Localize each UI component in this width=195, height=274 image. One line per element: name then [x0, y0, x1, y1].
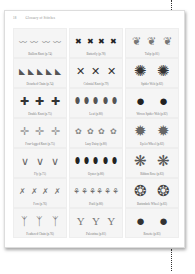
stitch-icon: ✖: [75, 37, 82, 46]
stitch-grid: 〰〰〰〰Bullion Knot (p.74)✖✖✖✖Butterfly (p.…: [13, 28, 179, 238]
stitch-caption: Spider Web (p.82): [126, 82, 178, 86]
stitch-icon: ⚘: [104, 187, 111, 196]
stitch-icon: ✚: [20, 95, 29, 108]
stitch-caption: Pistil (p.80): [70, 202, 122, 206]
stitch-caption: Fern (p.76): [14, 202, 66, 206]
stitch-icon: ❋: [157, 152, 170, 170]
stitch-icon: ✕: [91, 65, 100, 78]
stitch-icon: ⬮: [93, 96, 98, 106]
stitch-icon: ⬮: [103, 156, 108, 166]
stitch-sample: ✕✕✕Colonial Knot (p.79): [69, 58, 123, 88]
stitch-icon: ◣: [37, 67, 43, 76]
stitch-sample: ∨∨∨Fly (p.75): [13, 148, 67, 178]
stitch-icon: ✿: [87, 127, 94, 136]
stitch-icon: ⚘: [81, 187, 88, 196]
stitch-sample: ⬮⬮⬮⬮⬮Oyster (p.80): [69, 148, 123, 178]
stitch-illustration: ⬮⬮⬮⬮⬮: [73, 91, 119, 111]
stitch-illustration: ᛉᛉᛉ: [17, 211, 63, 231]
stitch-sample: ●●Rosette (p.83): [125, 208, 179, 238]
book-page: 18 Glossary of Stitches 〰〰〰〰Bullion Knot…: [4, 10, 185, 248]
stitch-sample: YYYPalestrina (p.81): [69, 208, 123, 238]
stitch-caption: Tulip (p.81): [126, 52, 178, 56]
stitch-icon: ◣: [55, 67, 61, 76]
stitch-sample: ✿✿✿✿Lazy Daisy (p.80): [69, 118, 123, 148]
stitch-icon: ✕: [76, 65, 85, 78]
stitch-sample: ⬮⬮⬮⬮⬮Leaf (p.80): [69, 88, 123, 118]
stitch-icon: ∨: [51, 155, 59, 168]
stitch-icon: ✿: [110, 127, 117, 136]
stitch-icon: ⬮: [93, 156, 98, 166]
stitch-icon: Y: [92, 215, 100, 227]
stitch-illustration: ∨∨∨: [17, 151, 63, 171]
stitch-icon: ❋: [134, 152, 147, 170]
stitch-sample: ⚘⚘⚘⚘⚘⚘Pistil (p.80): [69, 178, 123, 208]
stitch-icon: ❦: [147, 35, 156, 48]
stitch-icon: ❦: [163, 35, 172, 48]
stitch-icon: 〰: [19, 36, 27, 47]
stitch-caption: Eyelet Wheel (p.82): [126, 142, 178, 146]
stitch-icon: ✕: [107, 65, 116, 78]
stitch-sample: ᛉᛉᛉFeathered Chain (p.76): [13, 208, 67, 238]
stitch-caption: Oyster (p.80): [70, 172, 122, 176]
stitch-icon: ✗: [19, 187, 26, 196]
stitch-illustration: ✛✛✛: [17, 121, 63, 141]
stitch-sample: ✗✗✗✗Fern (p.76): [13, 178, 67, 208]
stitch-sample: 〰〰〰〰Bullion Knot (p.74): [13, 28, 67, 58]
stitch-illustration: ✿✿✿✿: [73, 121, 119, 141]
stitch-icon: ❂: [157, 182, 170, 200]
stitch-caption: Leaf (p.80): [70, 112, 122, 116]
stitch-caption: Double Knot (p.75): [14, 112, 66, 116]
stitch-caption: Palestrina (p.81): [70, 232, 122, 236]
stitch-icon: ✿: [75, 127, 82, 136]
stitch-icon: ✛: [35, 125, 44, 138]
stitch-icon: ●: [136, 93, 145, 110]
stitch-illustration: ●●: [129, 91, 175, 111]
stitch-illustration: ⚘⚘⚘⚘⚘⚘: [73, 181, 119, 201]
stitch-caption: Buttonhole Wheel (p.83): [126, 202, 178, 206]
stitch-illustration: ◣◣◣◣◣: [17, 61, 63, 81]
stitch-sample: ●●Woven Spider Web (p.82): [125, 88, 179, 118]
stitch-icon: ⬮: [75, 156, 80, 166]
stitch-sample: ✺✺Spider Web (p.82): [125, 58, 179, 88]
stitch-caption: Lazy Daisy (p.80): [70, 142, 122, 146]
stitch-icon: ✹: [134, 122, 147, 140]
stitch-sample: ✛✛✛Four-legged Knot (p.75): [13, 118, 67, 148]
stitch-icon: ●: [136, 213, 145, 230]
stitch-sample: ✚✚✚Double Knot (p.75): [13, 88, 67, 118]
stitch-icon: ⬮: [112, 156, 117, 166]
stitch-icon: 〰: [30, 36, 38, 47]
stitch-illustration: ✗✗✗✗: [17, 181, 63, 201]
stitch-illustration: ✕✕✕: [73, 61, 119, 81]
stitch-icon: ⬮: [103, 96, 108, 106]
stitch-icon: ⚘: [112, 187, 119, 196]
stitch-caption: Four-legged Knot (p.75): [14, 142, 66, 146]
stitch-icon: ✚: [51, 95, 60, 108]
stitch-illustration: ✹✹: [129, 121, 175, 141]
stitch-caption: Colonial Knot (p.79): [70, 82, 122, 86]
stitch-icon: ✖: [98, 37, 105, 46]
stitch-icon: ∨: [36, 155, 44, 168]
stitch-illustration: 〰〰〰〰: [17, 31, 63, 51]
stitch-icon: ⚘: [73, 187, 80, 196]
stitch-icon: ✖: [87, 37, 94, 46]
stitch-icon: ✛: [51, 125, 60, 138]
stitch-icon: ⬮: [84, 96, 89, 106]
stitch-illustration: ❂❂: [129, 181, 175, 201]
stitch-icon: ✗: [42, 187, 49, 196]
stitch-icon: ●: [159, 93, 168, 110]
stitch-icon: Y: [77, 215, 85, 227]
stitch-caption: Bullion Knot (p.74): [14, 52, 66, 56]
stitch-sample: ◣◣◣◣◣Detached Chain (p.74): [13, 58, 67, 88]
stitch-sample: ❂❂Buttonhole Wheel (p.83): [125, 178, 179, 208]
stitch-sample: ✖✖✖✖Butterfly (p.78): [69, 28, 123, 58]
stitch-illustration: ✚✚✚: [17, 91, 63, 111]
stitch-illustration: YYY: [73, 211, 119, 231]
stitch-icon: ⬮: [75, 96, 80, 106]
stitch-illustration: ●●: [129, 211, 175, 231]
stitch-caption: Rosette (p.83): [126, 232, 178, 236]
stitch-icon: ●: [159, 213, 168, 230]
running-header: 18 Glossary of Stitches: [13, 16, 55, 20]
stitch-icon: ⚘: [89, 187, 96, 196]
stitch-icon: ⬮: [112, 96, 117, 106]
stitch-icon: 〰: [53, 36, 61, 47]
